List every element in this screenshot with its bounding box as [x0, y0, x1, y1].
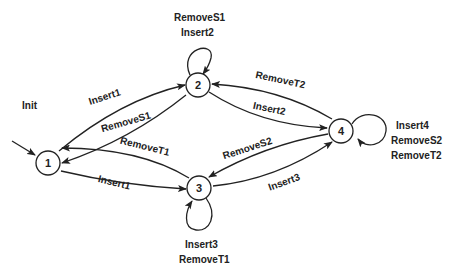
loop4-label-removet2: RemoveT2 [391, 150, 442, 161]
edge-label-removes1: RemoveS1 [100, 109, 153, 134]
loop4-label-removes2: RemoveS2 [391, 135, 443, 146]
loop4-label-insert4: Insert4 [396, 120, 429, 131]
state-node-2: 2 [186, 73, 210, 97]
loop3-label-removet1: RemoveT1 [179, 254, 230, 265]
node-1-label: 1 [45, 157, 51, 169]
init-label: Init [22, 100, 38, 111]
loop2-label-removes1: RemoveS1 [174, 12, 226, 23]
node-3-label: 3 [196, 182, 202, 194]
edge-label-removet2: RemoveT2 [255, 69, 307, 90]
edge-label-insert3: Insert3 [267, 171, 302, 193]
loop-4 [352, 115, 386, 145]
loop-2 [188, 48, 212, 75]
loop-3 [187, 198, 212, 230]
edge-label-insert2: Insert2 [252, 100, 287, 118]
edge-label-insert1-bottom: Insert1 [97, 173, 132, 192]
state-node-1: 1 [36, 151, 60, 175]
edge-label-insert1-top: Insert1 [87, 86, 122, 107]
loop3-label-insert3: Insert3 [185, 239, 218, 250]
state-node-4: 4 [329, 119, 353, 143]
init-arrow [12, 141, 35, 155]
node-2-label: 2 [195, 79, 201, 91]
edge-3-to-1 [62, 148, 189, 178]
loop2-label-insert2: Insert2 [181, 27, 214, 38]
state-diagram: Init Insert1 RemoveS1 RemoveS1 Insert2 R… [0, 0, 451, 274]
state-node-3: 3 [187, 176, 211, 200]
node-4-label: 4 [338, 125, 345, 137]
